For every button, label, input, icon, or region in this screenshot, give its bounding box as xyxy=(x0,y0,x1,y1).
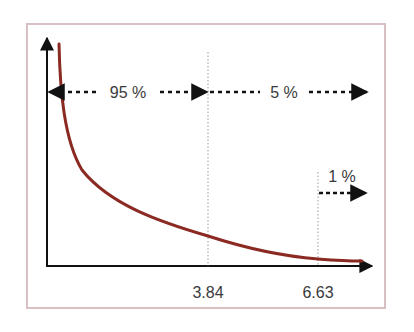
tick-label-384: 3.84 xyxy=(192,284,223,301)
label-5-percent: 5 % xyxy=(270,84,298,101)
label-1-percent: 1 % xyxy=(328,168,356,185)
chart-plot: 95 % 5 % 1 % 3.84 6.63 xyxy=(0,0,414,332)
tick-label-663: 6.63 xyxy=(302,284,333,301)
density-curve xyxy=(59,44,362,261)
label-95-percent: 95 % xyxy=(110,84,146,101)
